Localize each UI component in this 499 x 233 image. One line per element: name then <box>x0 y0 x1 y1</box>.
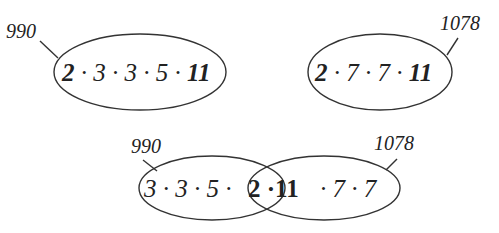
factor-2-common: 2 <box>314 59 328 86</box>
factor-2-common: 2 <box>61 59 75 86</box>
label-990: 990 <box>6 20 36 42</box>
leader-line-990 <box>40 41 58 58</box>
venn-label-1078: 1078 <box>374 132 414 154</box>
prime-factorization-venn-diagram: 990 2 · 3 · 3 · 5 · 11 1078 2 · 7 · 7 · … <box>0 0 499 233</box>
factors-unique-990: · 3 · 3 · 5 · <box>75 59 188 86</box>
venn-990-1078: 990 1078 3 · 3 · 5 · 2 ·11 · 7 · 7 <box>131 132 414 220</box>
factors-990: 2 · 3 · 3 · 5 · 11 <box>61 59 211 86</box>
venn-left-only-factors: 3 · 3 · 5 · <box>143 175 232 202</box>
set-990-prime-factors: 990 2 · 3 · 3 · 5 · 11 <box>6 20 226 110</box>
factors-1078: 2 · 7 · 7 · 11 <box>314 59 432 86</box>
factors-unique-1078: · 7 · 7 · <box>328 59 409 86</box>
label-1078: 1078 <box>440 12 480 34</box>
venn-leader-line-1078 <box>386 159 397 170</box>
venn-leader-line-990 <box>143 160 157 171</box>
factor-11-common: 11 <box>187 59 211 86</box>
leader-line-1078 <box>447 38 458 55</box>
factor-11-common: 11 <box>409 59 433 86</box>
venn-label-990: 990 <box>131 135 161 157</box>
set-1078-prime-factors: 1078 2 · 7 · 7 · 11 <box>308 12 480 110</box>
venn-intersection-gcd-factors: 2 ·11 <box>248 175 299 202</box>
venn-right-only-factors: · 7 · 7 <box>320 175 378 202</box>
